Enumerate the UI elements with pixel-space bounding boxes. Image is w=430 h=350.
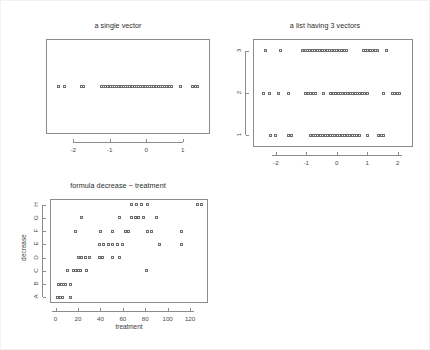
- data-point: [158, 243, 161, 246]
- data-point: [146, 203, 149, 206]
- data-point: [382, 92, 385, 95]
- data-point: [376, 49, 379, 52]
- y-axis-tick-label: 1: [235, 125, 242, 145]
- data-point: [79, 269, 82, 272]
- x-axis-tick-label: -2: [261, 159, 291, 166]
- y-axis-tick: [43, 297, 46, 298]
- panel-title-formula: formula decrease ~ treatment: [15, 181, 221, 190]
- y-axis-tick: [246, 135, 249, 136]
- data-point: [82, 85, 85, 88]
- x-axis-tick: [337, 152, 338, 155]
- data-point: [385, 49, 388, 52]
- panel-title-single-vector: a single vector: [15, 21, 221, 30]
- data-point: [66, 269, 69, 272]
- y-axis-tick: [246, 93, 249, 94]
- data-point: [322, 92, 325, 95]
- x-axis-line: [272, 155, 402, 156]
- data-point: [170, 85, 173, 88]
- y-axis-tick: [43, 231, 46, 232]
- x-axis-tick-label: 1: [352, 159, 382, 166]
- x-axis-tick: [123, 308, 124, 311]
- data-point: [279, 49, 282, 52]
- x-axis-tick: [110, 139, 111, 142]
- data-point: [57, 85, 60, 88]
- x-axis-tick-label: 120: [175, 315, 205, 322]
- data-point: [287, 92, 290, 95]
- data-point: [85, 269, 88, 272]
- data-point: [140, 203, 143, 206]
- data-point: [366, 134, 369, 137]
- data-point: [61, 296, 64, 299]
- x-axis-tick: [145, 308, 146, 311]
- data-point: [111, 243, 114, 246]
- data-point: [88, 256, 91, 259]
- x-axis-tick-label: 0: [322, 159, 352, 166]
- data-point: [200, 203, 203, 206]
- y-axis-tick: [43, 205, 46, 206]
- figure-canvas: a single vector -2-101 a list having 3 v…: [0, 0, 430, 350]
- data-point: [127, 230, 130, 233]
- y-axis-tick: [43, 271, 46, 272]
- data-point: [130, 203, 133, 206]
- panel-title-three-vectors: a list having 3 vectors: [225, 21, 425, 30]
- y-axis-tick: [246, 51, 249, 52]
- data-point: [69, 283, 72, 286]
- data-point: [107, 243, 110, 246]
- x-axis-tick: [276, 152, 277, 155]
- data-point: [314, 92, 317, 95]
- data-point: [264, 49, 267, 52]
- data-point: [366, 92, 369, 95]
- data-point: [358, 134, 361, 137]
- panel-formula-decrease-treatment: formula decrease ~ treatment 02040608010…: [15, 175, 221, 343]
- x-axis-tick-label: -1: [291, 159, 321, 166]
- x-axis-tick: [146, 139, 147, 142]
- data-point: [64, 283, 67, 286]
- y-axis-tick: [43, 258, 46, 259]
- data-point: [196, 85, 199, 88]
- y-axis-tick-label: 2: [235, 83, 242, 103]
- x-axis-tick: [367, 152, 368, 155]
- data-point: [118, 216, 121, 219]
- data-point: [150, 230, 153, 233]
- x-axis-tick: [168, 308, 169, 311]
- x-axis-tick: [190, 308, 191, 311]
- data-point: [101, 256, 104, 259]
- x-axis-title-treatment: treatment: [50, 323, 208, 330]
- data-point: [274, 134, 277, 137]
- data-point: [180, 243, 183, 246]
- data-point: [155, 216, 158, 219]
- x-axis-tick: [56, 308, 57, 311]
- data-point: [262, 92, 265, 95]
- x-axis-tick: [78, 308, 79, 311]
- data-point: [121, 243, 124, 246]
- data-point: [99, 230, 102, 233]
- data-point: [98, 243, 101, 246]
- data-point: [111, 230, 114, 233]
- y-axis-tick-label: H: [32, 194, 39, 214]
- data-point: [277, 92, 280, 95]
- x-axis-tick: [183, 139, 184, 142]
- data-point: [135, 203, 138, 206]
- y-axis-tick: [43, 218, 46, 219]
- data-point: [269, 134, 272, 137]
- data-point: [102, 243, 105, 246]
- data-point: [80, 256, 83, 259]
- panel-three-vectors: a list having 3 vectors -2-1012123: [225, 15, 425, 165]
- x-axis-tick: [73, 139, 74, 142]
- plot-area-formula: [50, 199, 208, 303]
- data-point: [268, 92, 271, 95]
- x-axis-tick-label: 2: [383, 159, 413, 166]
- y-axis-tick-label: 3: [235, 40, 242, 60]
- data-point: [74, 230, 77, 233]
- x-axis-line: [52, 311, 194, 312]
- data-point: [180, 230, 183, 233]
- data-point: [111, 256, 114, 259]
- panel-single-vector: a single vector -2-101: [15, 15, 221, 165]
- x-axis-tick: [306, 152, 307, 155]
- x-axis-tick: [100, 308, 101, 311]
- data-point: [142, 216, 145, 219]
- data-point: [179, 85, 182, 88]
- data-point: [146, 230, 149, 233]
- x-axis-line: [73, 142, 182, 143]
- data-point: [118, 256, 121, 259]
